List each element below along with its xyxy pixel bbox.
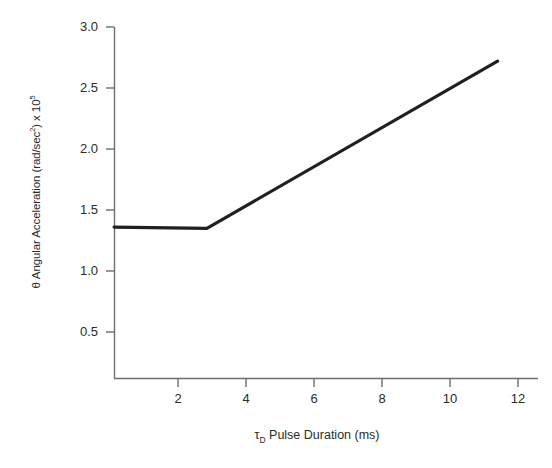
x-axis-ticks (178, 378, 518, 387)
chart-figure: θ Angular Acceleration (rad/sec2) x 105 … (0, 0, 552, 468)
y-axis-ticks (106, 27, 114, 332)
data-line-angular-acceleration (114, 61, 498, 228)
plot-area (0, 0, 552, 468)
